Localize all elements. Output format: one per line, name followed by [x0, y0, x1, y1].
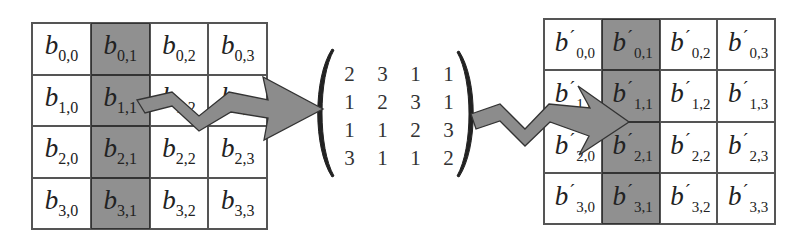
zigzag-arrow-icon [471, 86, 629, 155]
left-paren-icon [318, 49, 334, 177]
diagram-overlay [0, 0, 801, 238]
zigzag-arrow-icon [137, 77, 323, 140]
